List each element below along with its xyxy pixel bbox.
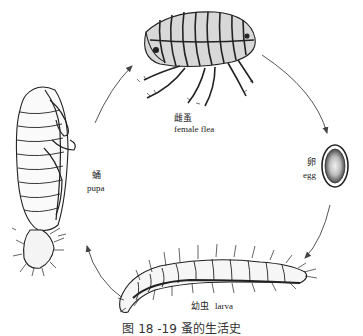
female-flea-label-zh: 雌蚤 <box>174 113 192 124</box>
pupa-label-zh: 蛹 <box>92 170 101 181</box>
larva-label-zh: 幼虫 <box>191 301 209 312</box>
female-flea-label-en: female flea <box>174 124 214 135</box>
arrow-pupa-to-flea <box>95 66 132 123</box>
egg-label-en: egg <box>303 170 316 181</box>
egg-label-zh: 卵 <box>307 157 316 168</box>
arrow-flea-to-egg <box>262 55 327 133</box>
larva-label-en: larva <box>215 301 233 312</box>
arrow-egg-to-larva <box>305 205 330 258</box>
arrow-larva-to-pupa <box>87 246 125 300</box>
figure-caption: 图 18 -19 蚤的生活史 <box>0 319 363 336</box>
pupa-label-en: pupa <box>87 183 105 194</box>
female-flea-illustration <box>137 12 255 106</box>
egg-illustration <box>322 145 348 187</box>
pupa-illustration <box>12 87 75 276</box>
